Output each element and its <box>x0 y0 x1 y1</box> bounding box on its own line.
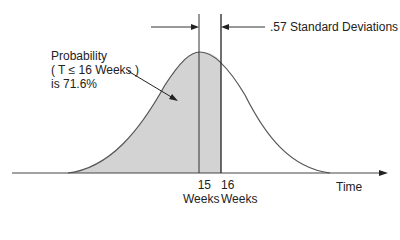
tick-unit: Weeks <box>221 192 257 206</box>
tick-value: 15 <box>183 178 217 192</box>
deviation-label: .57 Standard Deviations <box>270 20 398 34</box>
probability-annotation: Probability ( T ≤ 16 Weeks ) is 71.6% <box>51 49 139 91</box>
right-arrowhead-icon <box>221 24 229 30</box>
annotation-line-3: is 71.6% <box>51 77 139 91</box>
tick-value: 16 <box>221 178 257 192</box>
axis-arrowhead <box>379 170 388 176</box>
tick-unit: Weeks <box>183 192 217 206</box>
axis-label-time: Time <box>336 180 362 194</box>
tick-16-weeks: 16 Weeks <box>221 178 257 206</box>
tick-15-weeks: 15 Weeks <box>183 178 217 206</box>
annotation-line-2: ( T ≤ 16 Weeks ) <box>51 63 139 77</box>
left-arrowhead-icon <box>191 24 199 30</box>
annotation-line-1: Probability <box>51 49 139 63</box>
